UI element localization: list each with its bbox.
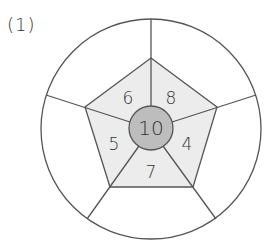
inner-value-top-right: 8 xyxy=(166,88,177,108)
inner-value-right: 4 xyxy=(182,134,193,154)
center-value: 10 xyxy=(138,116,163,140)
inner-value-left: 5 xyxy=(109,134,120,154)
inner-value-top-left: 6 xyxy=(123,88,134,108)
inner-value-bottom: 7 xyxy=(146,162,157,182)
number-wheel-diagram: 10 8 4 7 5 6 xyxy=(0,0,271,249)
